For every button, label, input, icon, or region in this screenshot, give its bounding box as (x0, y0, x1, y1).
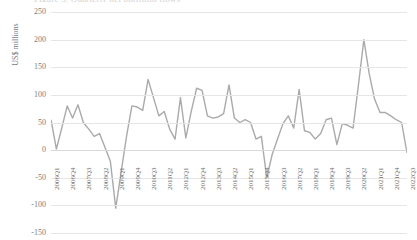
x-axis-tick-labels: 2006Q12006Q42007Q32008Q22009Q12009Q42010… (51, 150, 407, 240)
y-tick-label: 50 (12, 119, 46, 127)
y-tick-label: 200 (12, 36, 46, 44)
x-tick-label: 2018Q4 (329, 167, 336, 190)
x-tick-label: 2006Q1 (54, 167, 61, 190)
y-axis-tick-labels: 250200150100500-50-100-150 (12, 12, 46, 233)
x-tick-label: 2021Q4 (394, 167, 401, 190)
x-tick-label: 2014Q2 (232, 167, 239, 190)
chart-title: Figure 3. Quarterly net portfolio flows (34, 0, 180, 2)
x-tick-label: 2011Q2 (167, 168, 174, 190)
x-tick-label: 2016Q3 (281, 167, 288, 190)
x-tick-label: 2008Q2 (103, 167, 110, 190)
x-tick-label: 2020Q2 (361, 167, 368, 190)
y-tick-label: -100 (12, 201, 46, 209)
x-tick-label: 2013Q3 (216, 167, 223, 190)
x-tick-label: 2019Q3 (345, 167, 352, 190)
gridline (51, 12, 407, 13)
y-tick-label: 150 (12, 63, 46, 71)
x-tick-label: 2009Q1 (119, 167, 126, 190)
x-tick-label: 2009Q4 (135, 167, 142, 190)
x-tick-label: 2007Q3 (86, 167, 93, 190)
y-tick-label: -150 (12, 229, 46, 237)
gridline (51, 95, 407, 96)
x-tick-label: 2012Q4 (200, 167, 207, 190)
x-tick-label: 2015Q1 (248, 167, 255, 190)
y-tick-label: 0 (12, 146, 46, 154)
x-tick-label: 2006Q4 (70, 167, 77, 190)
y-tick-label: 250 (12, 8, 46, 16)
x-tick-label: 2021Q1 (378, 167, 385, 190)
x-tick-label: 2022Q3 (410, 167, 417, 190)
y-tick-label: -50 (12, 174, 46, 182)
x-tick-label: 2015Q4 (264, 167, 271, 190)
gridline (51, 67, 407, 68)
y-tick-label: 100 (12, 91, 46, 99)
gridline (51, 123, 407, 124)
x-tick-label: 2018Q1 (313, 167, 320, 190)
x-tick-label: 2012Q1 (183, 167, 190, 190)
gridline (51, 40, 407, 41)
x-tick-label: 2010Q3 (151, 167, 158, 190)
x-tick-label: 2017Q2 (297, 167, 304, 190)
